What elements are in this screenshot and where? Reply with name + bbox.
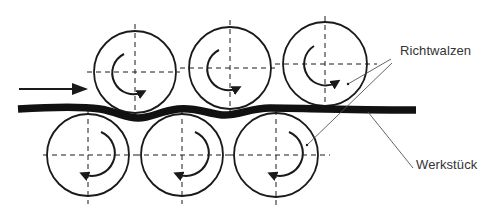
rollers-label: Richtwalzen	[400, 43, 471, 58]
bottom-roller-1	[43, 110, 135, 204]
straightening-rollers-diagram: Richtwalzen Werkstück	[0, 0, 494, 214]
workpiece-strip	[18, 107, 416, 118]
top-roller-2	[180, 20, 275, 112]
rotation-arrow-clockwise-icon	[304, 46, 337, 85]
bottom-roller-3	[230, 110, 330, 206]
workpiece-label: Werkstück	[416, 157, 477, 172]
rotation-arrow-clockwise-icon	[207, 50, 238, 90]
leader-lines-rollers	[306, 59, 392, 146]
top-roller-3	[275, 16, 377, 110]
top-roller-1	[87, 24, 180, 118]
rotation-arrow-clockwise-icon	[112, 54, 143, 94]
leader-line-workpiece	[368, 112, 413, 168]
bottom-roller-2	[135, 110, 230, 204]
diagram-graphics	[0, 0, 494, 214]
